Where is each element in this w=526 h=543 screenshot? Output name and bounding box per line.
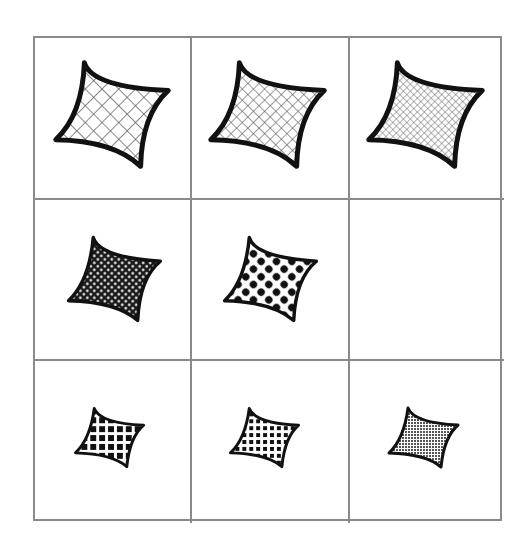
cell-r3-c3 <box>350 361 504 523</box>
star-shape-dots-large <box>192 200 348 359</box>
cell-r2-c3-empty <box>350 200 504 361</box>
puzzle-matrix <box>33 36 502 521</box>
cell-r1-c3 <box>350 38 504 200</box>
cell-r1-c2 <box>192 38 350 200</box>
star-shape-grid-fine <box>350 361 504 523</box>
cell-r2-c1 <box>35 200 192 361</box>
cell-r2-c2 <box>192 200 350 361</box>
cell-r3-c2 <box>192 361 350 523</box>
star-shape-grid-medium <box>192 361 348 523</box>
star-shape-hatch-fine <box>350 38 504 198</box>
star-shape-hatch-coarse <box>35 38 190 198</box>
cell-r3-c1 <box>35 361 192 523</box>
star-shape-dots-small <box>35 200 190 359</box>
star-shape-grid-coarse <box>35 361 190 523</box>
star-shape-hatch-medium <box>192 38 348 198</box>
cell-r1-c1 <box>35 38 192 200</box>
